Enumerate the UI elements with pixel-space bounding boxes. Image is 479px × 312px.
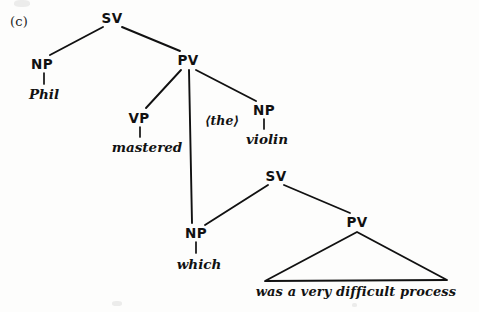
tree-branch-svroot-to-npphil: [50, 27, 103, 55]
tree-terminal-process: was a very difficult process: [256, 284, 456, 299]
tree-node-np-phil: NP: [31, 56, 53, 72]
tree-branch-pvmain-to-npwhich: [189, 70, 192, 223]
tree-annotation-the-bracketed: ⟨the⟩: [205, 113, 239, 128]
tree-node-vp-mastered: VP: [128, 110, 149, 126]
tree-terminal-phil: Phil: [29, 86, 59, 102]
tree-node-sv-lower: SV: [266, 168, 287, 184]
tree-branch-svroot-to-pvmain: [122, 27, 180, 51]
syntax-tree-lines: [0, 0, 479, 312]
figure-canvas: (c) SVNPPVVPNPNPSVPV Philmasteredviolinw…: [0, 0, 479, 312]
tree-terminal-violin: violin: [246, 131, 288, 147]
tree-terminal-which: which: [177, 256, 222, 272]
tree-terminal-mastered: mastered: [112, 139, 183, 155]
tree-node-np-which: NP: [185, 225, 207, 241]
tree-branch-svlower-to-npwhich: [205, 185, 268, 225]
tree-branch-pvmain-to-npviolin: [196, 70, 256, 101]
tree-node-pv-lower: PV: [346, 214, 367, 230]
tree-node-pv-main: PV: [177, 52, 198, 68]
tree-branch-pvmain-to-vpmastered: [146, 70, 181, 108]
tree-node-sv-root: SV: [102, 10, 123, 26]
phrase-triangle-pv-lower-triangle: [265, 232, 447, 281]
tree-branch-svlower-to-pvlower: [284, 185, 350, 213]
tree-node-np-violin: NP: [253, 102, 275, 118]
